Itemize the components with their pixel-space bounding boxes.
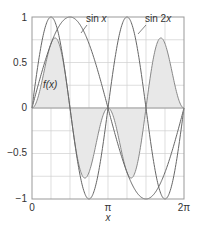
- sinx-label: sin x: [86, 13, 108, 24]
- x-axis-label: x: [105, 212, 112, 223]
- y-tick-neg0.5: −0.5: [7, 147, 27, 158]
- x-tick-2pi: 2π: [178, 202, 191, 213]
- chart: 1 0.5 0 −0.5 −1 0 π 2π x sin x sin 2x f(…: [0, 0, 202, 232]
- y-tick-0.5: 0.5: [13, 57, 27, 68]
- sin2x-leader: [138, 25, 146, 34]
- sin2x-label: sin 2x: [145, 13, 172, 24]
- x-tick-0: 0: [29, 202, 35, 213]
- y-tick-0: 0: [21, 102, 27, 113]
- y-tick-1: 1: [21, 12, 27, 23]
- fx-label: f(x): [43, 79, 57, 90]
- y-tick-neg1: −1: [16, 193, 28, 204]
